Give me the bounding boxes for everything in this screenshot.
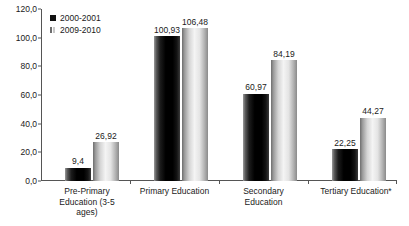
y-tick-label-20: 20,0 bbox=[20, 148, 37, 157]
bar-2009-2010-secondary[interactable]: 84,19 bbox=[271, 60, 297, 181]
legend-swatch-light-striped-icon bbox=[50, 27, 56, 33]
x-category-label-line: Primary Education bbox=[130, 186, 219, 197]
bar-value-label: 106,48 bbox=[182, 18, 208, 27]
bar-group-primary: 100,93 106,48 bbox=[154, 9, 219, 181]
bar-group-tertiary: 22,25 44,27 bbox=[332, 9, 397, 181]
y-tick-label-40: 40,0 bbox=[20, 119, 37, 128]
bar-2000-2001-primary[interactable]: 100,93 bbox=[154, 36, 180, 181]
legend-item-2000-2001[interactable]: 2000-2001 bbox=[50, 12, 101, 24]
x-category-label-pre-primary: Pre-Primary Education (3-5 ages) bbox=[44, 186, 130, 218]
x-category-label-primary: Primary Education bbox=[130, 186, 219, 197]
bar-value-label: 26,92 bbox=[95, 132, 116, 141]
x-axis-separator-1 bbox=[130, 181, 131, 184]
y-tick-label-0: 0,0 bbox=[25, 177, 37, 186]
y-tick-label-120: 120,0 bbox=[16, 5, 37, 14]
legend-swatch-dark-square-icon bbox=[50, 15, 56, 21]
bar-value-label: 84,19 bbox=[273, 50, 294, 59]
x-category-label-line: Pre-Primary bbox=[44, 186, 130, 197]
y-tick-label-100: 100,0 bbox=[16, 33, 37, 42]
x-axis-separator-4 bbox=[396, 181, 397, 184]
bar-2000-2001-secondary[interactable]: 60,97 bbox=[243, 94, 269, 181]
y-axis-labels: 0,0 20,0 40,0 60,0 80,0 100,0 120,0 bbox=[0, 0, 37, 226]
bar-2000-2001-pre-primary[interactable]: 9,4 bbox=[65, 168, 91, 182]
bar-2009-2010-tertiary[interactable]: 44,27 bbox=[360, 118, 386, 182]
x-category-label-tertiary: Tertiary Education* bbox=[306, 186, 406, 197]
x-category-label-line: ages) bbox=[44, 207, 130, 218]
bar-value-label: 100,93 bbox=[154, 26, 180, 35]
legend-label: 2009-2010 bbox=[60, 26, 101, 35]
bar-2009-2010-primary[interactable]: 106,48 bbox=[182, 28, 208, 181]
bar-value-label: 22,25 bbox=[334, 139, 355, 148]
x-category-label-line: Secondary bbox=[219, 186, 308, 197]
bar-chart: 0,0 20,0 40,0 60,0 80,0 100,0 120,0 9,4 … bbox=[0, 0, 409, 226]
x-category-label-secondary: Secondary Education bbox=[219, 186, 308, 207]
bar-2009-2010-pre-primary[interactable]: 26,92 bbox=[93, 142, 119, 181]
legend: 2000-2001 2009-2010 bbox=[50, 12, 101, 36]
y-tick-label-80: 80,0 bbox=[20, 62, 37, 71]
bar-value-label: 9,4 bbox=[72, 157, 84, 166]
x-category-label-line: Education (3-5 bbox=[44, 197, 130, 208]
y-tick-label-60: 60,0 bbox=[20, 91, 37, 100]
legend-item-2009-2010[interactable]: 2009-2010 bbox=[50, 24, 101, 36]
x-axis-separator-2 bbox=[219, 181, 220, 184]
bar-value-label: 44,27 bbox=[362, 107, 383, 116]
bar-value-label: 60,97 bbox=[245, 83, 266, 92]
x-category-label-line: Tertiary Education* bbox=[306, 186, 406, 197]
bar-2000-2001-tertiary[interactable]: 22,25 bbox=[332, 149, 358, 181]
x-axis-separator-3 bbox=[308, 181, 309, 184]
legend-label: 2000-2001 bbox=[60, 14, 101, 23]
x-category-label-line: Education bbox=[219, 197, 308, 208]
bar-group-secondary: 60,97 84,19 bbox=[243, 9, 308, 181]
